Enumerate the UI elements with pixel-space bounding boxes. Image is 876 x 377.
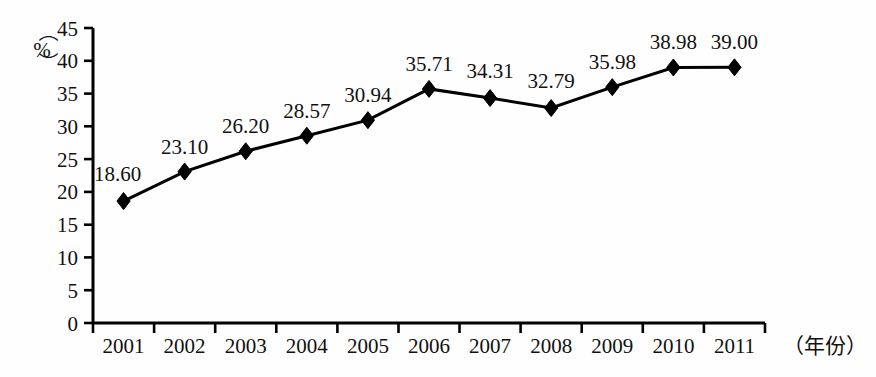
data-point-marker-2001 [117,193,130,210]
x-tick-label-2009: 2009 [591,334,633,358]
series-markers [117,59,741,210]
y-tick-label-5: 5 [68,279,79,303]
data-point-marker-2002 [178,163,191,180]
y-tick-label-45: 45 [57,17,78,41]
data-point-label-2008: 32.79 [528,69,575,93]
data-point-label-2004: 28.57 [283,99,330,123]
data-point-label-2003: 26.20 [222,114,269,138]
data-point-label-2009: 35.98 [589,50,636,74]
y-axis-unit-label: （ % ） [33,22,59,72]
x-tick-label-2006: 2006 [408,334,450,358]
chart-canvas: 0 5 10 15 20 25 30 35 40 45 （ % ） [0,0,876,377]
data-point-marker-2007 [483,90,496,107]
x-tick-label-2008: 2008 [530,334,572,358]
x-axis-caption: （年份） [783,334,867,358]
data-point-marker-2011 [728,59,741,76]
x-tick-label-2011: 2011 [714,334,755,358]
data-point-marker-2003 [239,143,252,160]
x-tick-label-2003: 2003 [225,334,267,358]
data-point-marker-2006 [422,80,435,97]
y-tick-label-20: 20 [57,180,78,204]
y-tick-label-15: 15 [57,213,78,237]
series-point-labels: 18.6023.1026.2028.5730.9435.7134.3132.79… [94,30,758,186]
line-chart-figure: 0 5 10 15 20 25 30 35 40 45 （ % ） [0,0,876,377]
data-point-marker-2009 [606,79,619,96]
x-tick-label-2004: 2004 [286,334,329,358]
y-tick-label-40: 40 [57,49,78,73]
data-point-label-2001: 18.60 [94,162,141,186]
data-point-label-2010: 38.98 [650,30,697,54]
data-point-label-2006: 35.71 [405,52,452,76]
x-tick-label-2005: 2005 [347,334,389,358]
data-point-label-2002: 23.10 [161,135,208,159]
x-tick-label-2010: 2010 [652,334,694,358]
y-tick-label-0: 0 [68,312,79,336]
data-point-label-2005: 30.94 [344,83,392,107]
data-point-marker-2004 [300,127,313,144]
data-point-label-2011: 39.00 [711,30,758,54]
y-tick-label-10: 10 [57,246,78,270]
y-unit-close-paren: ） [37,52,59,72]
x-tick-label-2002: 2002 [164,334,206,358]
x-tick-label-2001: 2001 [103,334,145,358]
y-tick-label-25: 25 [57,148,78,172]
y-tick-label-30: 30 [57,115,78,139]
y-tick-label-35: 35 [57,82,78,106]
x-axis-tick-labels: 2001 2002 2003 2004 2005 2006 2007 2008 … [103,334,756,358]
y-axis-tick-labels: 0 5 10 15 20 25 30 35 40 45 [57,17,78,336]
x-tick-label-2007: 2007 [469,334,511,358]
data-point-marker-2010 [667,59,680,76]
data-point-marker-2008 [545,100,558,117]
data-point-marker-2005 [361,112,374,129]
data-point-label-2007: 34.31 [466,59,513,83]
